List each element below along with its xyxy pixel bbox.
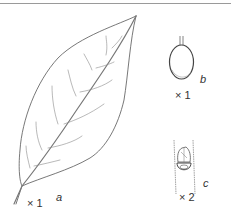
leaf-petiole bbox=[16, 186, 22, 204]
panel-c-scale: × 2 bbox=[179, 192, 195, 203]
panel-c-label: c bbox=[203, 178, 209, 189]
panel-b-label: b bbox=[200, 74, 206, 85]
panel-a-label: a bbox=[56, 192, 62, 203]
leaf-illustration bbox=[14, 16, 136, 204]
botanical-plate bbox=[0, 0, 231, 220]
bud-illustration bbox=[174, 140, 195, 194]
leaf-outline bbox=[19, 16, 136, 186]
stem-left-edge bbox=[174, 140, 176, 194]
panel-a-scale: × 1 bbox=[27, 198, 43, 209]
fruit-illustration bbox=[170, 36, 194, 79]
leaf-midrib bbox=[14, 16, 136, 204]
leaf-veins bbox=[26, 36, 122, 168]
panel-b-scale: × 1 bbox=[175, 90, 191, 101]
stem-right-edge bbox=[193, 140, 195, 194]
